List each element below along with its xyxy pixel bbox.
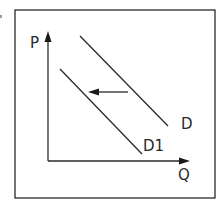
y-axis-arrowhead-icon [45, 31, 52, 42]
corner-mark [0, 15, 2, 18]
demand-shift-diagram: P Q D D1 [0, 0, 220, 206]
shift-arrow-left-icon [88, 89, 99, 96]
x-axis-arrowhead-icon [179, 158, 190, 165]
demand-curve-d1 [60, 69, 142, 154]
x-axis-label: Q [178, 166, 190, 184]
demand-curve-d-label: D [181, 115, 193, 133]
demand-curve-d1-label: D1 [143, 137, 164, 155]
y-axis-label: P [30, 34, 39, 52]
demand-curve-d [80, 36, 168, 126]
